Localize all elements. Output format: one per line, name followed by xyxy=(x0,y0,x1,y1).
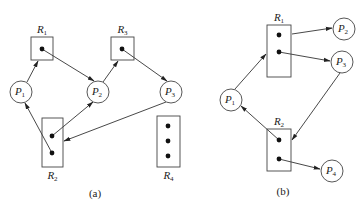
instance-dot xyxy=(50,134,55,139)
request-edge-p3-r2 xyxy=(64,102,166,141)
assignment-edge-r2-p4 xyxy=(279,159,320,169)
request-edge-p2-r3 xyxy=(103,61,118,82)
assignment-edge-r3-p3 xyxy=(122,49,167,81)
instance-dot xyxy=(166,139,171,144)
resource-box xyxy=(267,129,291,171)
resource-label-r2: R2 xyxy=(273,115,285,129)
resource-r1: R1 xyxy=(267,11,291,77)
resource-r4: R4 xyxy=(157,116,180,183)
process-p3: P3 xyxy=(160,81,182,103)
graph-a: R1R3R2R4P1P2P3 xyxy=(10,23,182,183)
caption-b: (b) xyxy=(277,185,290,198)
resource-label-r3: R3 xyxy=(116,23,128,37)
request-edge-p3-r2 xyxy=(292,73,340,140)
process-p1: P1 xyxy=(220,89,242,111)
instance-dot xyxy=(120,47,125,52)
instance-dot xyxy=(277,157,282,162)
request-edge-p1-r1 xyxy=(235,54,266,89)
process-p4: P4 xyxy=(321,160,343,182)
caption-a: (a) xyxy=(89,187,102,200)
graph-b: R1R2P1P2P3P4 xyxy=(220,11,355,182)
assignment-edge-r1-p2 xyxy=(42,49,94,81)
process-p1: P1 xyxy=(10,81,32,103)
instance-dot xyxy=(277,138,282,143)
instance-dot xyxy=(40,47,45,52)
resource-r1: R1 xyxy=(31,23,53,60)
resource-allocation-graphs: R1R3R2R4P1P2P3 R1R2P1P2P3P4 (a) (b) xyxy=(0,0,361,211)
resource-label-r1: R1 xyxy=(36,23,48,37)
assignment-edge-r1-p3 xyxy=(279,52,330,61)
request-edge-p1-r1 xyxy=(27,61,38,82)
resource-label-r4: R4 xyxy=(162,169,174,183)
resource-r2: R2 xyxy=(267,115,291,171)
assignment-edge-r2-p1 xyxy=(25,103,52,153)
assignment-edge-r1-p2 xyxy=(292,28,332,34)
instance-dot xyxy=(277,33,282,38)
instance-dot xyxy=(166,124,171,129)
resource-label-r2: R2 xyxy=(46,169,58,183)
instance-dot xyxy=(50,151,55,156)
instance-dot xyxy=(166,154,171,159)
assignment-edge-r2-p2 xyxy=(52,102,93,136)
instance-dot xyxy=(277,50,282,55)
resource-label-r1: R1 xyxy=(273,11,285,25)
resource-box xyxy=(42,118,63,167)
process-p2: P2 xyxy=(87,81,109,103)
resource-r3: R3 xyxy=(111,23,134,60)
process-p2: P2 xyxy=(333,18,355,40)
resource-r2: R2 xyxy=(42,118,63,183)
process-p3: P3 xyxy=(331,51,353,73)
